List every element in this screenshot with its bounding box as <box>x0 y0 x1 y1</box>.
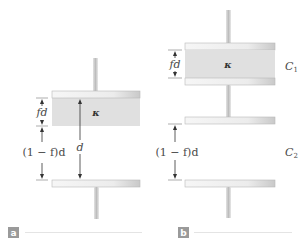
bottom-plate <box>52 180 140 187</box>
c1-bottom-plate <box>185 78 275 85</box>
top-plate <box>52 91 140 98</box>
bottom-lead-wire <box>226 187 231 218</box>
d-label: d <box>76 141 83 154</box>
connecting-wire <box>226 85 231 117</box>
c2-top-plate <box>185 117 275 124</box>
panel-a-tag-label: a <box>10 228 16 238</box>
c1-label: C1 <box>285 60 298 74</box>
fd-label: fd <box>168 58 180 71</box>
c2-bottom-plate <box>185 180 275 187</box>
panel-a: κ fd (1 − f)d d <box>8 58 142 238</box>
panel-b-tag-label: b <box>180 228 187 238</box>
gap-dimension: (1 − f)d <box>156 124 199 180</box>
c2-label: C2 <box>285 146 298 160</box>
top-lead-wire <box>226 10 231 43</box>
c1-top-plate <box>185 43 275 50</box>
dielectric-constant-label: κ <box>223 59 232 70</box>
gap-label: (1 − f)d <box>156 146 199 159</box>
gap-dimension: (1 − f)d <box>23 127 66 180</box>
fd-dimension: fd <box>35 98 48 126</box>
fd-label: fd <box>35 106 47 119</box>
gap-label: (1 − f)d <box>23 146 66 159</box>
panel-b: κ fd C1 (1 − f)d C2 b <box>156 10 298 238</box>
fd-dimension: fd <box>168 50 182 78</box>
capacitor-diagram: κ fd (1 − f)d d <box>0 0 301 248</box>
top-lead-wire <box>93 58 98 91</box>
bottom-lead-wire <box>94 187 99 219</box>
dielectric-constant-label: κ <box>91 107 100 118</box>
